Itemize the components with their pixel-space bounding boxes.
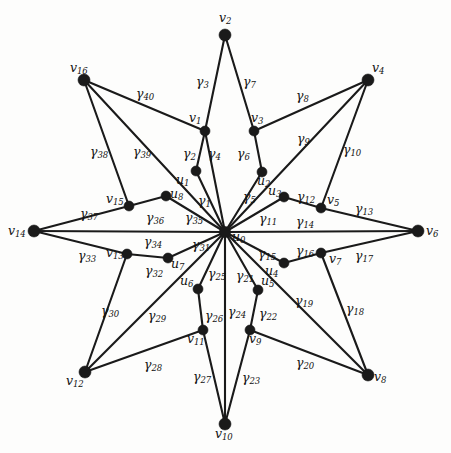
vertex-label-v3: v3 [251,112,263,126]
graph-figure: u0v1u1v2v3u2v4u3v5v6u4v7u5v8v9v10u6v11v1… [0,0,451,453]
edge-label-g23: γ23 [242,372,260,386]
edge-label-g11: γ11 [259,213,277,227]
edge-label-g2: γ2 [183,148,196,162]
graph-vertex-u1 [191,166,201,176]
edge-label-g21: γ21 [236,270,254,284]
edge-label-g32: γ32 [145,265,163,279]
edge-label-g28: γ28 [144,359,162,373]
edge-label-g1: γ1 [198,195,211,209]
edge-label-g35: γ35 [185,212,203,226]
vertex-label-u3: u3 [268,185,281,199]
graph-vertex-v8 [362,369,374,381]
vertex-label-v9: v9 [249,333,261,347]
vertex-label-u6: u6 [180,275,193,289]
edge-label-g30: γ30 [101,305,119,319]
graph-vertex-v1 [200,126,210,136]
graph-edge-g22 [250,290,258,330]
graph-vertex-v15 [124,201,134,211]
vertex-label-v10: v10 [215,428,233,442]
edge-label-g12: γ12 [297,191,315,205]
edge-label-g20: γ20 [296,357,314,371]
graph-edge-g26 [198,289,203,330]
edge-label-g39: γ39 [133,146,151,160]
vertex-label-v13: v13 [106,247,124,261]
vertex-label-v11: v11 [187,333,205,347]
vertex-label-v16: v16 [70,62,88,76]
edge-label-g4: γ4 [208,148,221,162]
edge-label-g36: γ36 [146,212,164,226]
vertex-label-v12: v12 [66,375,84,389]
edge-label-g26: γ26 [205,310,223,324]
graph-vertex-u6 [193,284,203,294]
vertex-label-v15: v15 [106,193,124,207]
edge-label-g8: γ8 [296,90,309,104]
edge-label-g3: γ3 [196,76,209,90]
edge-label-g25: γ25 [208,268,226,282]
vertex-label-u8: u8 [170,188,183,202]
graph-vertex-v14 [28,225,40,237]
edge-label-g22: γ22 [259,308,277,322]
graph-edge-g32 [127,254,168,258]
vertex-label-v7: v7 [329,253,341,267]
vertex-label-v8: v8 [374,371,386,385]
graph-vertex-v7 [316,248,326,258]
edge-label-g7: γ7 [243,76,256,90]
edge-label-g33: γ33 [78,250,96,264]
edge-label-g37: γ37 [80,208,98,222]
graph-edge-g2 [196,131,205,171]
graph-edge-g6 [254,131,262,172]
edge-label-g40: γ40 [136,88,154,102]
vertex-label-v2: v2 [219,12,231,26]
graph-vertex-v3 [249,126,259,136]
vertex-label-v14: v14 [8,225,26,239]
edge-label-g38: γ38 [90,146,108,160]
edge-label-g27: γ27 [193,371,211,385]
vertex-label-v6: v6 [426,225,438,239]
edge-label-g18: γ18 [346,303,364,317]
graph-edge-g38 [84,80,129,206]
edge-label-g10: γ10 [343,144,361,158]
vertex-label-u7: u7 [171,258,184,272]
vertex-label-u5: u5 [261,275,274,289]
edge-label-g19: γ19 [295,295,313,309]
edge-label-g34: γ34 [144,236,162,250]
edge-label-g15: γ15 [258,248,276,262]
vertex-label-v1: v1 [189,112,201,126]
edge-label-g16: γ16 [296,245,314,259]
edge-label-g29: γ29 [148,310,166,324]
edge-label-g14: γ14 [296,216,314,230]
graph-edge-g36 [129,196,166,206]
edge-label-g31: γ31 [192,239,210,253]
graph-edge-g8 [254,80,368,131]
graph-vertex-u4 [279,258,289,268]
edge-label-g5: γ5 [243,191,256,205]
graph-edge-g34 [34,231,225,232]
edge-label-g24: γ24 [228,306,246,320]
edge-label-g17: γ17 [355,250,373,264]
graph-vertex-u0 [219,226,230,237]
graph-edge-g14 [225,231,418,232]
graph-vertex-v2 [219,29,231,41]
vertex-label-v4: v4 [372,62,384,76]
edge-label-g9: γ9 [297,133,310,147]
edge-label-g13: γ13 [355,203,373,217]
vertex-label-v5: v5 [327,194,339,208]
graph-vertex-v5 [316,203,326,213]
edge-label-g6: γ6 [237,148,250,162]
graph-vertex-v6 [412,225,424,237]
vertex-label-u0: u0 [232,231,245,245]
